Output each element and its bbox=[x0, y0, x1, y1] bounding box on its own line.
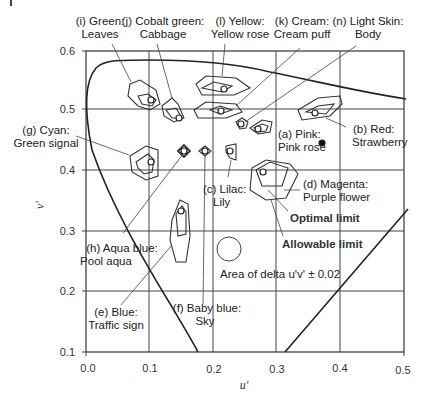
label-e-line2: Traffic sign bbox=[88, 319, 144, 331]
label-g-line2: Green signal bbox=[13, 137, 78, 149]
label-j-line1: (j) Cobalt green: bbox=[122, 15, 204, 27]
svg-text:0.2: 0.2 bbox=[60, 285, 75, 297]
label-c-line1: (c) Lilac: bbox=[203, 183, 246, 195]
label-g-line1: (g) Cyan: bbox=[22, 124, 69, 136]
svg-text:0.4: 0.4 bbox=[332, 362, 347, 374]
label-a-line2: Pink rose bbox=[278, 141, 326, 153]
label-k-line2: Cream puff bbox=[274, 28, 331, 40]
purple-line bbox=[285, 209, 408, 352]
svg-text:0.3: 0.3 bbox=[60, 225, 75, 237]
label-d-line2: Purple flower bbox=[303, 191, 370, 203]
chromaticity-chart: 0.6 0.5 0.4 0.3 0.2 0.1 0.0 0.1 0.2 0.3 … bbox=[0, 0, 429, 407]
y-axis-label: v' bbox=[33, 201, 47, 209]
label-d-line1: (d) Magenta: bbox=[303, 178, 368, 190]
label-h-line2: Pool aqua bbox=[80, 255, 132, 267]
label-n-line2: Body bbox=[355, 28, 381, 40]
svg-text:0.1: 0.1 bbox=[142, 362, 157, 374]
svg-text:0.6: 0.6 bbox=[60, 45, 75, 57]
label-c-line2: Lily bbox=[213, 196, 231, 208]
label-optimal-limit: Optimal limit bbox=[290, 212, 360, 224]
label-l-line1: (l) Yellow: bbox=[215, 15, 264, 27]
svg-text:0.4: 0.4 bbox=[60, 164, 75, 176]
svg-text:0.1: 0.1 bbox=[60, 346, 75, 358]
delta-area-circle bbox=[217, 237, 241, 261]
label-a-line1: (a) Pink: bbox=[278, 128, 321, 140]
svg-text:0.5: 0.5 bbox=[60, 103, 75, 115]
label-b-line2: Strawberry bbox=[352, 136, 408, 148]
label-area: Area of delta u'v' ± 0.02 bbox=[220, 268, 340, 280]
x-axis-label: u' bbox=[240, 378, 249, 392]
y-ticks: 0.6 0.5 0.4 0.3 0.2 0.1 bbox=[60, 45, 75, 358]
label-allowable-limit: Allowable limit bbox=[282, 238, 363, 250]
svg-text:0.3: 0.3 bbox=[269, 363, 284, 375]
label-j-line2: Cabbage bbox=[140, 28, 187, 40]
label-f-line2: Sky bbox=[195, 315, 214, 327]
svg-text:0.2: 0.2 bbox=[206, 363, 221, 375]
label-e-line1: (e) Blue: bbox=[94, 306, 137, 318]
label-n-line1: (n) Light Skin: bbox=[333, 15, 404, 27]
label-h-line1: (h) Aqua blue: bbox=[86, 242, 158, 254]
label-k-line1: (k) Cream: bbox=[275, 15, 329, 27]
label-b-line1: (b) Red: bbox=[353, 123, 395, 135]
tolerance-regions bbox=[128, 76, 342, 262]
label-i-line2: Leaves bbox=[81, 28, 118, 40]
label-i-line1: (i) Green: bbox=[76, 15, 125, 27]
svg-text:0.0: 0.0 bbox=[80, 362, 95, 374]
label-l-line2: Yellow rose bbox=[211, 28, 269, 40]
label-f-line1: (f) Baby blue: bbox=[173, 302, 241, 314]
svg-text:0.5: 0.5 bbox=[395, 364, 410, 376]
x-ticks: 0.0 0.1 0.2 0.3 0.4 0.5 bbox=[80, 362, 410, 376]
